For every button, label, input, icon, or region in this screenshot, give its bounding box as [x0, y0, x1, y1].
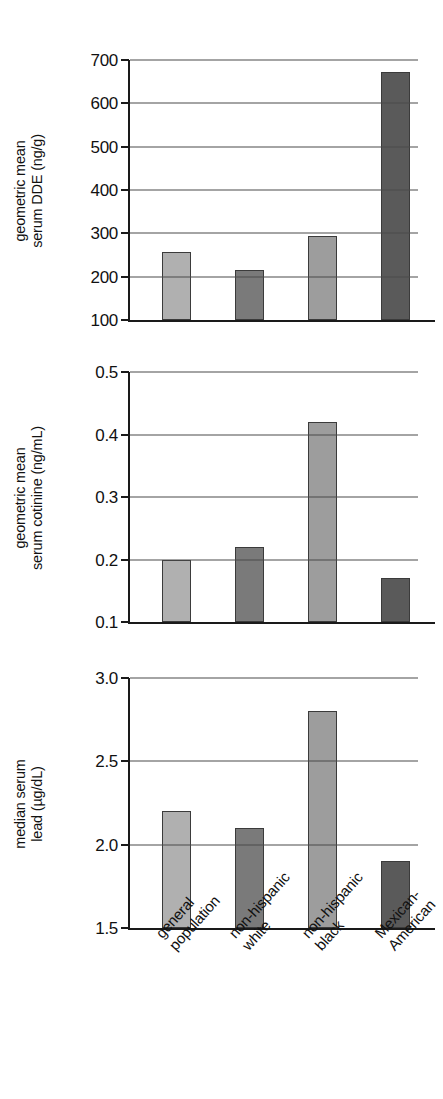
plot-area-cotinine — [128, 372, 443, 624]
y-tick-dde — [121, 102, 129, 104]
y-tick-labels-lead: 1.52.02.53.0 — [56, 678, 122, 930]
y-tick-lead — [121, 677, 129, 679]
y-tick-label-cotinine: 0.1 — [95, 614, 118, 631]
gridline-lead — [130, 761, 418, 762]
bar-dde-1 — [235, 270, 264, 320]
y-tick-label-lead: 3.0 — [95, 670, 118, 687]
y-tick-label-cotinine: 0.2 — [95, 551, 118, 568]
y-tick-label-lead: 2.0 — [95, 836, 118, 853]
y-tick-dde — [121, 232, 129, 234]
gridline-cotinine — [130, 434, 418, 435]
panel-serum-dde: geometric mean serum DDE (ng/g) 10020030… — [0, 60, 443, 322]
y-tick-lead — [121, 760, 129, 762]
x-axis-category-labels: generalpopulationnon-hispanicwhitenon-hi… — [0, 930, 443, 1099]
gridline-dde — [130, 276, 418, 277]
y-tick-label-dde: 100 — [91, 312, 118, 329]
y-tick-dde — [121, 319, 129, 321]
y-tick-label-dde: 700 — [91, 52, 118, 69]
y-tick-lead — [121, 927, 129, 929]
y-axis-title-lead-line1: median serum — [12, 759, 29, 848]
y-axis-title-dde: geometric mean serum DDE (ng/g) — [0, 60, 58, 322]
y-tick-label-cotinine: 0.5 — [95, 364, 118, 381]
y-tick-labels-cotinine: 0.10.20.30.40.5 — [56, 372, 122, 624]
y-tick-label-dde: 600 — [91, 95, 118, 112]
y-tick-dde — [121, 59, 129, 61]
y-tick-cotinine — [121, 434, 129, 436]
y-axis-title-cotinine: geometric mean serum cotinine (ng/mL) — [0, 372, 58, 624]
x-axis-line-dde — [128, 320, 435, 322]
bar-cotinine-3 — [381, 578, 410, 622]
gridline-cotinine — [130, 559, 418, 560]
y-tick-label-lead: 2.5 — [95, 753, 118, 770]
bar-cotinine-0 — [162, 560, 191, 623]
bar-dde-2 — [308, 236, 337, 320]
y-tick-lead — [121, 844, 129, 846]
bar-cotinine-2 — [308, 422, 337, 622]
gridline-lead — [130, 844, 418, 845]
y-tick-dde — [121, 189, 129, 191]
x-axis-line-cotinine — [128, 622, 435, 624]
y-tick-label-cotinine: 0.4 — [95, 426, 118, 443]
y-axis-title-lead-line2: lead (µg/dL) — [29, 759, 46, 848]
y-tick-label-dde: 500 — [91, 138, 118, 155]
y-axis-title-dde-line1: geometric mean — [12, 134, 29, 248]
gridline-dde — [130, 146, 418, 147]
bar-dde-3 — [381, 72, 410, 320]
figure-three-panel-bar-charts: geometric mean serum DDE (ng/g) 10020030… — [0, 0, 443, 1099]
gridline-cotinine — [130, 497, 418, 498]
y-axis-title-cotinine-line1: geometric mean — [12, 426, 29, 570]
y-tick-dde — [121, 276, 129, 278]
y-tick-labels-dde: 100200300400500600700 — [56, 60, 122, 322]
gridline-dde — [130, 233, 418, 234]
gridline-cotinine — [130, 372, 418, 373]
panel-serum-cotinine: geometric mean serum cotinine (ng/mL) 0.… — [0, 372, 443, 624]
y-axis-title-cotinine-line2: serum cotinine (ng/mL) — [29, 426, 46, 570]
plot-area-dde — [128, 60, 443, 322]
gridline-dde — [130, 190, 418, 191]
bar-dde-0 — [162, 252, 191, 320]
gridline-dde — [130, 60, 418, 61]
y-tick-label-dde: 200 — [91, 268, 118, 285]
y-tick-label-dde: 300 — [91, 225, 118, 242]
y-tick-label-dde: 400 — [91, 182, 118, 199]
y-axis-title-dde-line2: serum DDE (ng/g) — [29, 134, 46, 248]
y-axis-title-lead: median serum lead (µg/dL) — [0, 678, 58, 930]
gridline-lead — [130, 678, 418, 679]
y-tick-cotinine — [121, 559, 129, 561]
y-tick-cotinine — [121, 621, 129, 623]
gridline-dde — [130, 103, 418, 104]
y-tick-dde — [121, 146, 129, 148]
y-tick-cotinine — [121, 496, 129, 498]
y-tick-label-cotinine: 0.3 — [95, 489, 118, 506]
y-tick-cotinine — [121, 371, 129, 373]
